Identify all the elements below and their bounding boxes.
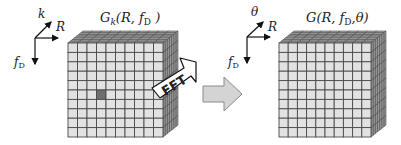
grid-cell: [343, 90, 352, 99]
grid-cell: [297, 71, 306, 80]
grid-cell: [68, 118, 78, 127]
grid-cell: [154, 109, 164, 118]
grid-cell: [106, 109, 116, 118]
grid-cell: [78, 118, 88, 127]
grid-cell: [106, 52, 116, 61]
grid-cell: [362, 52, 371, 61]
grid-cell: [288, 99, 297, 108]
grid-cell: [353, 71, 362, 80]
grid-cell: [78, 43, 88, 52]
grid-cell: [116, 109, 126, 118]
grid-cell: [125, 62, 135, 71]
grid-cell: [125, 43, 135, 52]
grid-cell: [343, 62, 352, 71]
grid-cell: [125, 118, 135, 127]
grid-cell: [316, 62, 325, 71]
grid-cell: [307, 62, 316, 71]
grid-cell: [297, 52, 306, 61]
grid-cell: [334, 99, 343, 108]
grid-cell: [116, 71, 126, 80]
grid-cell: [154, 128, 164, 137]
grid-cell: [144, 109, 154, 118]
grid-cell: [325, 109, 334, 118]
grid-cell: [116, 81, 126, 90]
grid-cell: [135, 62, 145, 71]
grid-cell: [87, 99, 97, 108]
grid-cell: [343, 81, 352, 90]
left-axis-fd-label: fD: [13, 55, 25, 70]
grid-cell: [97, 62, 107, 71]
grid-cell: [135, 52, 145, 61]
cube-side-cell: [380, 119, 382, 130]
grid-cell: [78, 71, 88, 80]
grid-cell: [135, 118, 145, 127]
grid-cell: [362, 99, 371, 108]
grid-cell: [343, 99, 352, 108]
grid-cell: [316, 81, 325, 90]
grid-cell: [106, 81, 116, 90]
cube-side-cell: [375, 122, 377, 133]
left-axes: k R fD: [13, 7, 65, 70]
grid-cell: [279, 71, 288, 80]
grid-cell: [87, 128, 97, 137]
grid-cell: [343, 109, 352, 118]
grid-cell: [353, 52, 362, 61]
grid-cell: [144, 90, 154, 99]
grid-cell: [154, 99, 164, 108]
grid-cell: [97, 109, 107, 118]
grid-cell: [68, 128, 78, 137]
grid-cell: [307, 118, 316, 127]
grid-cell: [144, 43, 154, 52]
right-block-title: G(R, fD,θ): [306, 10, 369, 27]
grid-cell: [125, 109, 135, 118]
grid-cell: [353, 62, 362, 71]
grid-cell: [116, 43, 126, 52]
grid-cell: [78, 90, 88, 99]
grid-cell: [334, 71, 343, 80]
grid-cell: [116, 99, 126, 108]
grid-cell: [135, 71, 145, 80]
cube-side-cell: [167, 122, 169, 133]
grid-cell: [144, 71, 154, 80]
grid-cell: [288, 128, 297, 137]
grid-cell: [288, 52, 297, 61]
process-arrow: [203, 77, 242, 111]
grid-cell: [106, 43, 116, 52]
cube-side-cell: [169, 121, 171, 132]
grid-cell: [279, 90, 288, 99]
grid-cell: [279, 81, 288, 90]
grid-cell: [279, 52, 288, 61]
grid-cell: [116, 52, 126, 61]
grid-cell: [97, 71, 107, 80]
grid-cell: [68, 81, 78, 90]
grid-cell: [78, 99, 88, 108]
grid-cell: [135, 43, 145, 52]
grid-cell: [68, 109, 78, 118]
grid-cell: [307, 71, 316, 80]
grid-cell: [334, 43, 343, 52]
grid-cell: [288, 43, 297, 52]
grid-cell: [316, 128, 325, 137]
grid-cell: [325, 99, 334, 108]
grid-cell: [334, 62, 343, 71]
grid-cell: [135, 81, 145, 90]
grid-cell: [106, 71, 116, 80]
grid-cell: [154, 71, 164, 80]
grid-cell: [78, 81, 88, 90]
grid-cell: [307, 43, 316, 52]
grid-cell: [353, 99, 362, 108]
grid-cell: [144, 52, 154, 61]
cube-side-cell: [382, 117, 384, 128]
grid-cell: [297, 43, 306, 52]
grid-cell: [362, 62, 371, 71]
grid-cell: [325, 128, 334, 137]
right-axis-fd-label: fD: [227, 55, 239, 70]
grid-cell: [68, 52, 78, 61]
cube-side-cell: [377, 121, 379, 132]
grid-cell: [97, 43, 107, 52]
grid-cell: [135, 128, 145, 137]
grid-cell: [353, 90, 362, 99]
grid-cell: [106, 118, 116, 127]
grid-cell: [362, 109, 371, 118]
grid-cell: [97, 81, 107, 90]
